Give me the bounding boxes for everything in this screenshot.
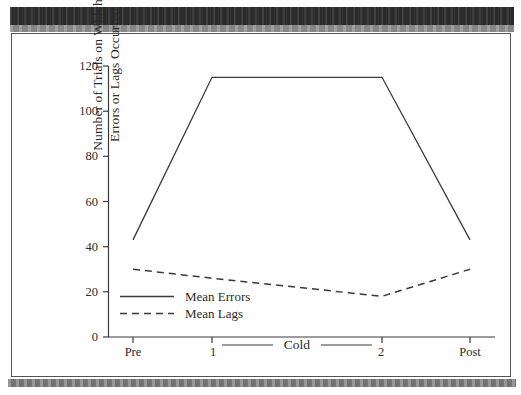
y-tick-label-100: 100 [64, 104, 98, 119]
scan-artifact-bottom-band [8, 379, 516, 387]
scan-artifact-gray-band [10, 25, 514, 32]
y-axis-title-line-1: Number of Trials on Which [89, 0, 106, 151]
y-tick-label-80: 80 [64, 149, 98, 164]
x-tick-label-post: Post [459, 345, 481, 360]
x-tick-label-2: 2 [378, 345, 384, 360]
y-axis-title-line-2: Errors or Lags Occurred [106, 8, 123, 142]
y-tick-label-0: 0 [64, 330, 98, 345]
x-axis-group-label-cold: Cold [284, 337, 310, 353]
scan-artifact-dark-band [10, 7, 514, 25]
x-tick-label-pre: Pre [125, 345, 142, 360]
legend-label-mean-lags: Mean Lags [185, 306, 243, 322]
y-tick-label-40: 40 [64, 239, 98, 254]
figure-page: Number of Trials on Which Errors or Lags… [0, 0, 521, 395]
y-tick-label-120: 120 [64, 59, 98, 74]
legend-label-mean-errors: Mean Errors [185, 289, 250, 305]
x-tick-label-1: 1 [210, 345, 216, 360]
y-tick-label-60: 60 [64, 194, 98, 209]
y-tick-label-20: 20 [64, 284, 98, 299]
